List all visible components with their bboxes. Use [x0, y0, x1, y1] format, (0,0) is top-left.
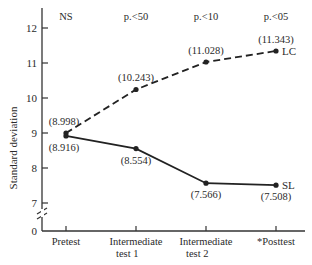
- significance-label: p.<05: [264, 11, 288, 22]
- line-chart: 0789101112 NSp.<50p.<10p.<05 LC(8.998)(1…: [0, 0, 312, 265]
- y-tick-label: 11: [26, 57, 37, 69]
- data-point: [63, 133, 68, 138]
- significance-label: p.<50: [124, 11, 148, 22]
- value-label: (10.243): [118, 72, 154, 84]
- data-point: [133, 87, 138, 92]
- value-label: (8.998): [49, 116, 80, 128]
- y-tick-label: 12: [26, 22, 37, 34]
- value-label: (7.508): [261, 191, 292, 203]
- y-axis-label: Standard deviation: [7, 106, 19, 189]
- x-tick-label: Intermediate: [179, 236, 232, 247]
- data-point: [273, 183, 278, 188]
- x-tick-label: *Posttest: [257, 236, 295, 247]
- y-tick-label: 9: [32, 127, 38, 139]
- value-label: (8.916): [49, 142, 80, 154]
- value-label: (11.343): [258, 34, 294, 46]
- series-name-lc: LC: [282, 45, 296, 57]
- value-label: (11.028): [188, 45, 224, 57]
- x-axis-labels: PretestIntermediatetest 1Intermediatetes…: [52, 236, 295, 259]
- series-line-sl: [66, 136, 276, 185]
- x-tick-label: Intermediate: [109, 236, 162, 247]
- x-tick-label: test 1: [116, 248, 138, 259]
- series-name-sl: SL: [282, 179, 295, 191]
- data-point: [203, 181, 208, 186]
- significance-labels: NSp.<50p.<10p.<05: [59, 11, 288, 22]
- value-label: (7.566): [191, 189, 222, 201]
- series-line-lc: [66, 51, 276, 133]
- data-point: [203, 59, 208, 64]
- x-tick-label: Pretest: [52, 236, 81, 247]
- y-tick-label: 10: [26, 92, 38, 104]
- data-point: [273, 48, 278, 53]
- significance-label: NS: [59, 11, 73, 22]
- x-tick-label: test 2: [186, 248, 208, 259]
- value-label: (8.554): [121, 155, 152, 167]
- y-tick-label: 8: [32, 162, 38, 174]
- significance-label: p.<10: [194, 11, 218, 22]
- series-lines: LC(8.998)(10.243)(11.028)(11.343)SL(8.91…: [49, 34, 296, 203]
- y-tick-label: 0: [32, 225, 38, 237]
- data-point: [133, 146, 138, 151]
- y-tick-label: 7: [32, 197, 38, 209]
